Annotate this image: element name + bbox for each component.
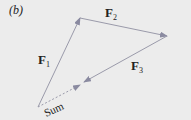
vector-diagram bbox=[0, 0, 191, 120]
vector-f2 bbox=[80, 18, 167, 36]
label-f2: F2 bbox=[105, 5, 117, 22]
panel-label: (b) bbox=[9, 3, 23, 18]
vector-f3 bbox=[84, 36, 167, 82]
label-f1: F1 bbox=[38, 52, 50, 69]
label-f3: F3 bbox=[131, 58, 143, 75]
